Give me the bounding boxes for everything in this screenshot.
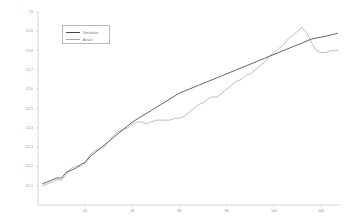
legend-swatch-actual — [66, 39, 80, 40]
y-tick-label: 13 — [17, 10, 33, 14]
plot-area — [0, 0, 345, 223]
line-chart: 12.112.212.312.412.512.612.712.812.913 2… — [0, 0, 345, 223]
x-tick-label: 100 — [265, 209, 283, 213]
y-tick-label: 12.7 — [17, 68, 33, 72]
y-tick-label: 12.9 — [17, 29, 33, 33]
series-line-simulation — [43, 33, 338, 184]
x-tick-label: 120 — [312, 209, 330, 213]
y-tick-label: 12.2 — [17, 164, 33, 168]
x-tick-label: 60 — [171, 209, 189, 213]
series-line-actual — [43, 27, 338, 185]
y-tick-label: 12.4 — [17, 126, 33, 130]
y-tick-label: 12.3 — [17, 145, 33, 149]
y-tick-label: 12.8 — [17, 49, 33, 53]
y-tick-label: 12.5 — [17, 107, 33, 111]
x-tick-label: 20 — [76, 209, 94, 213]
legend-label-actual: Actual — [83, 38, 92, 42]
x-tick-label: 80 — [218, 209, 236, 213]
legend-item-simulation: Simulation — [66, 29, 98, 36]
y-tick-label: 12.6 — [17, 87, 33, 91]
x-tick-label: 40 — [123, 209, 141, 213]
legend-item-actual: Actual — [66, 36, 92, 43]
y-tick-label: 12.1 — [17, 184, 33, 188]
legend-label-simulation: Simulation — [83, 31, 98, 35]
legend-swatch-simulation — [66, 32, 80, 33]
chart-legend: Simulation Actual — [62, 25, 110, 44]
